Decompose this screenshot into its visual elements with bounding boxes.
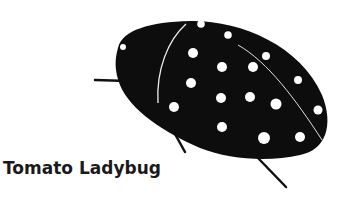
caption: Tomato Ladybug xyxy=(3,158,161,178)
